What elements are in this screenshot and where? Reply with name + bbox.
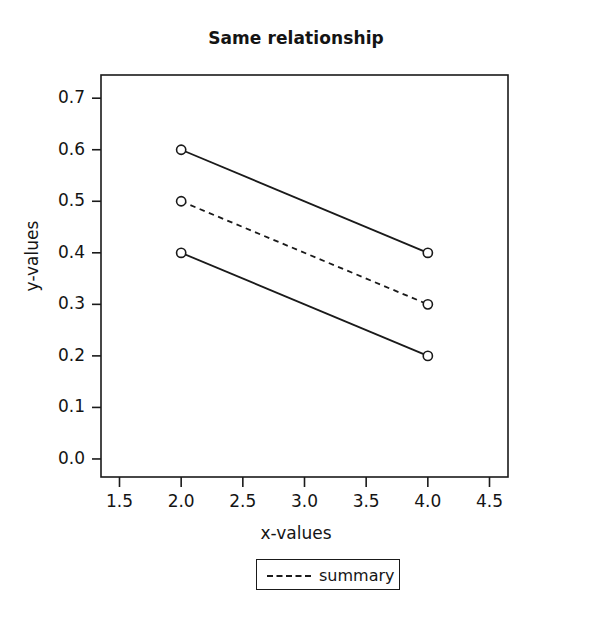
- x-tick-label: 4.5: [460, 493, 520, 510]
- x-tick-label: 3.5: [336, 493, 396, 510]
- y-tick-label: 0.0: [29, 450, 85, 467]
- x-tick-label: 2.5: [213, 493, 273, 510]
- y-tick-label: 0.1: [29, 398, 85, 415]
- x-tick-label: 4.0: [398, 493, 458, 510]
- data-point-marker: [177, 145, 186, 154]
- y-tick-label: 0.2: [29, 347, 85, 364]
- legend-line-swatch-summary: [267, 575, 311, 577]
- legend-box: summary: [256, 559, 400, 590]
- data-point-marker: [423, 300, 432, 309]
- y-tick-label: 0.4: [29, 244, 85, 261]
- series-line-lower: [181, 253, 428, 356]
- legend-label-summary: summary: [319, 565, 395, 586]
- x-tick-label: 2.0: [151, 493, 211, 510]
- chart-figure: Same relationship y-values x-values 0.00…: [0, 0, 592, 621]
- data-point-marker: [177, 197, 186, 206]
- data-point-marker: [423, 248, 432, 257]
- axes-group: [92, 75, 508, 487]
- plot-border: [101, 75, 508, 477]
- y-tick-label: 0.6: [29, 141, 85, 158]
- data-series-group: [177, 145, 433, 360]
- series-line-upper: [181, 150, 428, 253]
- data-point-marker: [423, 351, 432, 360]
- y-tick-label: 0.3: [29, 295, 85, 312]
- data-point-marker: [177, 248, 186, 257]
- y-tick-label: 0.5: [29, 192, 85, 209]
- x-tick-label: 1.5: [90, 493, 150, 510]
- series-line-summary: [181, 201, 428, 304]
- x-tick-label: 3.0: [275, 493, 335, 510]
- plot-canvas: [0, 0, 592, 621]
- y-tick-label: 0.7: [29, 89, 85, 106]
